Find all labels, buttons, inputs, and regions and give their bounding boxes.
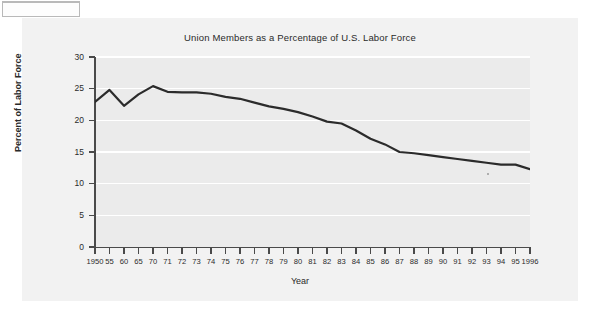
chart-figure: Union Members as a Percentage of U.S. La… — [0, 0, 607, 321]
x-tick-mark — [297, 248, 298, 254]
x-axis-title: Year — [22, 276, 578, 286]
x-tick-mark — [196, 248, 197, 254]
x-tick-mark — [442, 248, 443, 254]
y-tick-label: 15 — [58, 147, 84, 157]
y-tick-label: 20 — [58, 115, 84, 125]
y-tick-label: 25 — [58, 83, 84, 93]
x-tick-label: 1996 — [515, 257, 545, 266]
scan-speck — [487, 173, 489, 175]
x-tick-mark — [341, 248, 342, 254]
x-tick-mark — [399, 248, 400, 254]
x-tick-mark — [138, 248, 139, 254]
x-tick-mark — [500, 248, 501, 254]
x-tick-mark — [355, 248, 356, 254]
x-tick-mark — [486, 248, 487, 254]
x-tick-mark — [123, 248, 124, 254]
y-tick-label: 5 — [58, 210, 84, 220]
x-tick-mark — [370, 248, 371, 254]
x-tick-mark — [210, 248, 211, 254]
x-tick-mark — [109, 248, 110, 254]
data-line — [95, 57, 530, 247]
x-tick-mark — [239, 248, 240, 254]
x-tick-mark — [94, 248, 95, 254]
x-tick-mark — [312, 248, 313, 254]
chart-title: Union Members as a Percentage of U.S. La… — [22, 32, 578, 43]
x-tick-mark — [413, 248, 414, 254]
series-polyline — [95, 86, 530, 169]
y-tick-label: 10 — [58, 178, 84, 188]
x-tick-mark — [515, 248, 516, 254]
x-tick-mark — [529, 248, 530, 254]
x-tick-mark — [428, 248, 429, 254]
x-tick-mark — [152, 248, 153, 254]
x-tick-mark — [225, 248, 226, 254]
x-tick-mark — [471, 248, 472, 254]
x-tick-mark — [181, 248, 182, 254]
x-tick-mark — [254, 248, 255, 254]
y-tick-label: 0 — [58, 242, 84, 252]
x-tick-mark — [384, 248, 385, 254]
x-tick-mark — [268, 248, 269, 254]
scan-artifact-box — [2, 1, 80, 17]
chart-panel: Union Members as a Percentage of U.S. La… — [22, 18, 578, 301]
x-tick-mark — [167, 248, 168, 254]
y-axis-title: Percent of Labor Force — [13, 53, 23, 152]
x-tick-mark — [326, 248, 327, 254]
y-tick-label: 30 — [58, 52, 84, 62]
x-tick-mark — [457, 248, 458, 254]
x-tick-mark — [283, 248, 284, 254]
